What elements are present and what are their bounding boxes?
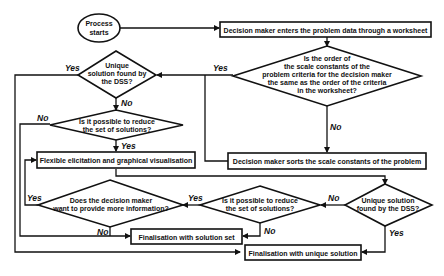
order-line2: the scale constants of the [284, 63, 370, 70]
label-no-unique2: No [328, 193, 339, 203]
unique1-line3: the DSS? [101, 78, 132, 85]
sort-constants-text: Decision maker sorts the scale constants… [233, 158, 421, 166]
more-information-decision: Does the decision maker want to provide … [38, 180, 183, 227]
label-yes-more: Yes [27, 193, 42, 203]
more-line2: want to provide more information? [52, 205, 169, 213]
reduce1-line1: Is it possible to reduce [79, 118, 155, 126]
more-line1: Does the decision maker [70, 197, 153, 204]
unique1-line1: Unique [105, 62, 129, 70]
label-no-reduce1: No [37, 113, 48, 123]
reduce-set-decision-1: Is it possible to reduce the set of solu… [50, 110, 183, 140]
label-no-reduce2: No [264, 226, 275, 236]
reduce1-line2: the set of solutions? [83, 126, 151, 133]
finalisation-solution-set-box: Finalisation with solution set [131, 229, 242, 244]
unique-solution-decision-2: Unique solution found by the DSS? [345, 184, 432, 226]
unique1-line2: solution found by [88, 70, 147, 78]
flexible-elicitation-box: Flexible elicitation and graphical visua… [37, 152, 195, 168]
order-decision: Is the order of the scale constants of t… [233, 46, 421, 106]
unique2-line2: found by the DSS? [357, 205, 420, 213]
start-node: Process starts [78, 14, 120, 42]
unique2-line1: Unique solution [362, 197, 415, 205]
order-line4: the same as the order of the criteria [268, 79, 387, 86]
label-yes-order: Yes [213, 63, 228, 73]
enter-data-box: Decision maker enters the problem data t… [220, 22, 431, 37]
flexible-elicitation-text: Flexible elicitation and graphical visua… [40, 157, 193, 165]
unique-solution-decision-1: Unique solution found by the DSS? [78, 51, 156, 98]
flowchart: Process starts Decision maker enters the… [0, 0, 444, 276]
start-line2: starts [89, 29, 108, 36]
reduce2-line1: Is it possible to reduce [222, 197, 298, 205]
enter-data-text: Decision maker enters the problem data t… [224, 27, 428, 35]
finalisation-set-text: Finalisation with solution set [138, 234, 235, 241]
label-no-order: No [330, 122, 341, 132]
label-yes-unique2: Yes [389, 228, 404, 238]
reduce-set-decision-2: Is it possible to reduce the set of solu… [200, 186, 320, 223]
start-line1: Process [85, 20, 112, 27]
label-yes-reduce1: Yes [121, 141, 136, 151]
reduce2-line2: the set of solutions? [226, 205, 294, 212]
label-no-unique1: No [121, 98, 132, 108]
label-yes-unique1: Yes [65, 63, 80, 73]
finalisation-unique-text: Finalisation with unique solution [249, 250, 358, 258]
finalisation-unique-solution-box: Finalisation with unique solution [245, 245, 361, 260]
sort-constants-box: Decision maker sorts the scale constants… [228, 153, 426, 169]
order-line1: Is the order of [304, 55, 351, 62]
order-line3: problem criteria for the decision maker [262, 71, 392, 79]
label-yes-reduce2: Yes [188, 193, 203, 203]
order-line5: in the worksheet? [297, 87, 357, 94]
label-no-more: No [97, 227, 108, 237]
